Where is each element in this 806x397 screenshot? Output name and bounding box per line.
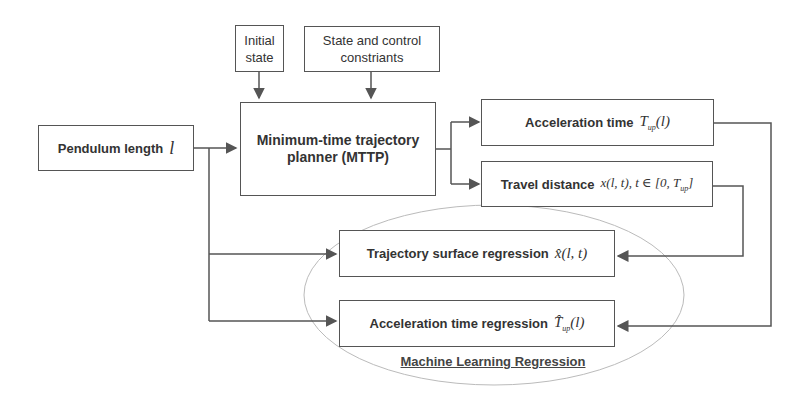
pendulum-length-symbol: l [169, 138, 174, 159]
pendulum-length-label: Pendulum length [58, 140, 163, 157]
travel-distance-label: Travel distance [501, 176, 595, 193]
ml-regression-caption: Machine Learning Regression [378, 354, 608, 369]
acceleration-time-label: Acceleration time [525, 114, 633, 131]
initial-state-box: Initial state [235, 25, 284, 72]
acceleration-time-box: Acceleration time Tup(l) [481, 99, 714, 146]
travel-distance-box: Travel distance x(l, t), t ∈ [0, Tup] [481, 161, 713, 207]
mttp-planner-box: Minimum-time trajectory planner (MTTP) [240, 102, 436, 196]
acceleration-time-regression-formula: T̂up(l) [554, 314, 585, 333]
acceleration-time-regression-label: Acceleration time regression [370, 315, 548, 332]
trajectory-surface-regression-label: Trajectory surface regression [367, 245, 549, 262]
acceleration-time-regression-box: Acceleration time regression T̂up(l) [339, 300, 615, 347]
acceleration-time-formula: Tup(l) [639, 113, 670, 132]
pendulum-length-box: Pendulum length l [38, 125, 194, 171]
mttp-planner-label: Minimum-time trajectory planner (MTTP) [253, 132, 423, 166]
travel-distance-formula: x(l, t), t ∈ [0, Tup] [601, 175, 694, 193]
initial-state-label: Initial state [240, 32, 280, 66]
constraints-label: State and control constriants [316, 32, 428, 66]
trajectory-surface-regression-box: Trajectory surface regression x̂(l, t) [339, 230, 615, 277]
trajectory-surface-formula: x̂(l, t) [555, 245, 587, 262]
constraints-box: State and control constriants [304, 26, 440, 72]
